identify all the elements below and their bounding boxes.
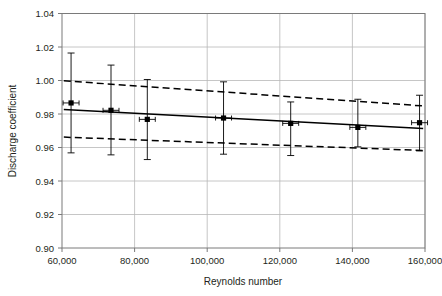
data-point-marker [355,125,360,130]
data-point-marker [417,120,422,125]
data-point-marker [145,117,150,122]
x-tick-label: 100,000 [190,255,224,266]
y-tick-label: 0.96 [36,142,55,153]
x-axis-title: Reynolds number [204,276,283,287]
data-point-marker [221,115,226,120]
x-tick-label: 140,000 [335,255,369,266]
data-point-marker [68,100,73,105]
x-tick-label: 80,000 [120,255,149,266]
y-tick-label: 0.94 [36,176,55,187]
x-tick-label: 60,000 [47,255,76,266]
data-point-marker [108,108,113,113]
chart-container: 60,00080,000100,000120,000140,000160,000… [0,0,442,296]
y-tick-label: 0.92 [36,209,55,220]
x-tick-label: 120,000 [263,255,297,266]
data-point-marker [288,121,293,126]
y-axis-title: Discharge coefficient [7,84,18,177]
y-tick-label: 1.02 [36,42,55,53]
y-tick-label: 0.90 [36,243,55,254]
x-tick-label: 160,000 [408,255,442,266]
y-tick-label: 1.04 [36,8,55,19]
y-tick-label: 1.00 [36,75,55,86]
discharge-coefficient-chart: 60,00080,000100,000120,000140,000160,000… [0,0,442,296]
y-tick-label: 0.98 [36,109,55,120]
